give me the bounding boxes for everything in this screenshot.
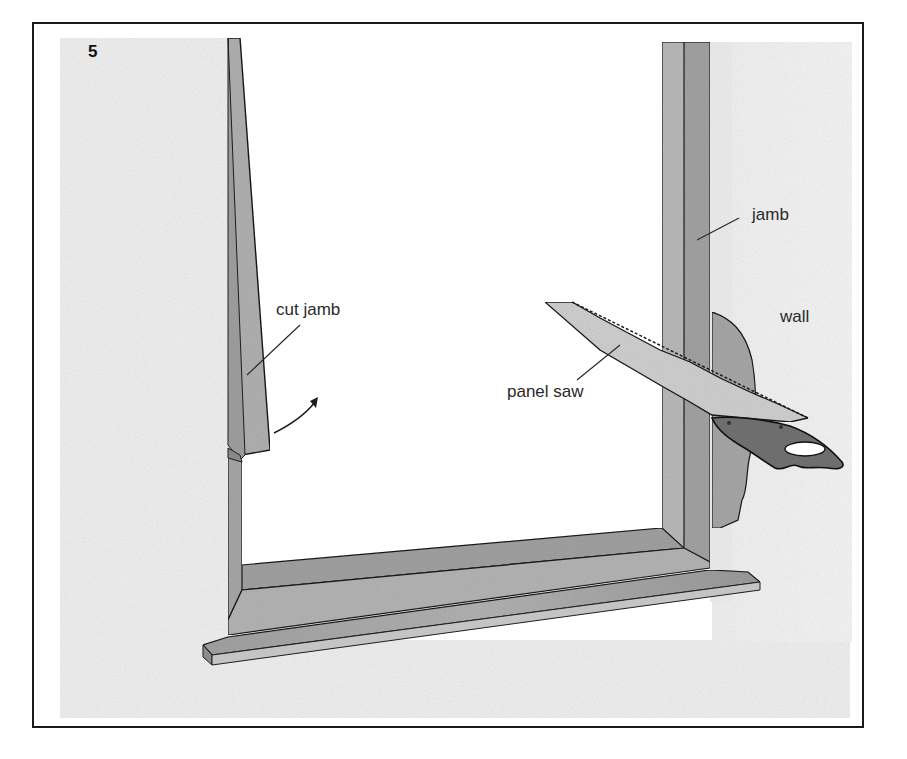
rotation-arrow [274, 397, 318, 433]
saw-handle-grip-hole [785, 442, 825, 456]
right-jamb [662, 42, 710, 562]
leader-panel-saw [577, 345, 620, 380]
cut-jamb-piece [228, 38, 270, 460]
label-jamb: jamb [752, 205, 789, 225]
window-jamb-illustration [0, 0, 907, 759]
label-cut-jamb: cut jamb [276, 300, 340, 320]
figure-number: 5 [88, 42, 97, 62]
label-panel-saw: panel saw [507, 382, 584, 402]
label-wall: wall [780, 307, 809, 327]
